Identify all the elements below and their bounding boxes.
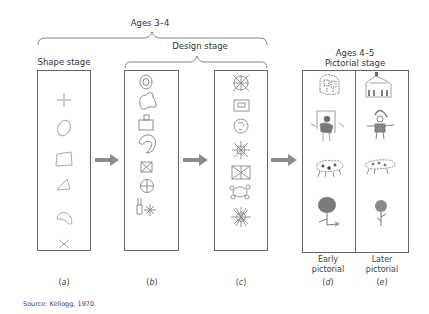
rectangle-shape [56, 152, 72, 166]
pictorial-divider [355, 71, 356, 252]
crossed-circle-x [233, 75, 249, 91]
arrow-icon [95, 154, 119, 166]
asterisk-shape [144, 204, 156, 216]
turtle-shape [230, 185, 250, 199]
mandala-sun [231, 207, 251, 227]
box-in-box [234, 100, 249, 111]
spiral-blob [139, 135, 155, 153]
caption-a: (a) [50, 278, 78, 287]
oval-shape [55, 118, 73, 138]
caption-b: (b) [138, 278, 166, 287]
early-animal-drawing [317, 160, 343, 177]
plus-shape [57, 93, 71, 107]
shape-drawings [38, 71, 90, 250]
later-pictorial-label: Later pictorial [358, 255, 406, 275]
sun-radial [232, 141, 250, 159]
design-drawings [125, 71, 178, 250]
ages-3-4-brace [38, 32, 267, 45]
circle-with-marks [234, 119, 248, 133]
later-flower-drawing [375, 200, 387, 226]
concentric-circle [140, 75, 152, 89]
panel-c-design-stage [214, 70, 268, 251]
early-pictorial-label: Early pictorial [305, 255, 351, 275]
early-house-drawing [320, 75, 339, 94]
crossed-rect [232, 166, 250, 179]
early-tree-drawing [318, 197, 339, 226]
caption-d: (d) [314, 278, 342, 287]
box-with-handle [139, 120, 153, 130]
early-person-drawing [311, 111, 344, 141]
panel-b-design-stage [124, 70, 179, 251]
later-person-drawing [367, 111, 394, 140]
caption-e: (e) [368, 278, 396, 287]
bottle-shape [137, 198, 142, 214]
caption-c: (c) [227, 278, 255, 287]
amoeba-shape [57, 213, 72, 225]
arrow-icon [271, 154, 297, 166]
panel-pictorial-stage [302, 70, 409, 253]
triangle-shape [57, 179, 70, 190]
design-stage-brace [125, 56, 267, 68]
combine-drawings [215, 71, 267, 250]
x-shape [59, 240, 69, 248]
later-animal-drawing [365, 160, 395, 174]
arrow-icon [183, 154, 208, 166]
later-house-drawing [366, 72, 391, 97]
amoeba-combined [140, 93, 157, 109]
source-note: Source: Kellogg, 1970. [23, 300, 96, 308]
panel-a-shape-stage [37, 70, 91, 251]
